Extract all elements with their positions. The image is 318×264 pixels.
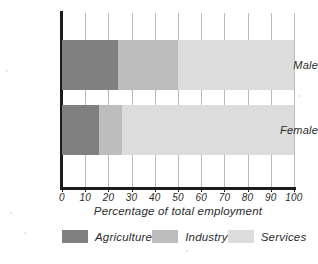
y-axis-line — [60, 11, 63, 190]
bar-segment-industry — [118, 40, 178, 90]
speckle — [186, 250, 188, 252]
x-axis-tick-label: 90 — [259, 192, 283, 203]
bar-male — [62, 40, 294, 90]
x-axis-tick-label: 10 — [73, 192, 97, 203]
bar-segment-agriculture — [62, 105, 99, 155]
legend-swatch-industry — [152, 230, 178, 243]
legend-item-agriculture: Agriculture — [62, 230, 152, 243]
category-label-female: Female — [262, 124, 318, 136]
legend-swatch-agriculture — [62, 230, 88, 243]
speckle — [24, 232, 26, 234]
x-axis-tick-label: 20 — [96, 192, 120, 203]
x-axis-tick-label: 100 — [282, 192, 306, 203]
legend-label-agriculture: Agriculture — [95, 231, 152, 243]
x-axis-tick-label: 0 — [50, 192, 74, 203]
speckle — [6, 70, 8, 72]
x-axis-line — [60, 187, 296, 190]
legend-item-industry: Industry — [152, 230, 228, 243]
x-axis-tick-label: 50 — [166, 192, 190, 203]
legend-item-services: Services — [228, 230, 307, 243]
x-axis-tick-label: 30 — [120, 192, 144, 203]
x-axis-tick-label: 80 — [236, 192, 260, 203]
bar-segment-agriculture — [62, 40, 118, 90]
speckle — [10, 212, 12, 214]
x-axis-tick-label: 60 — [189, 192, 213, 203]
stacked-bar-chart: 0102030405060708090100 Male Female Perce… — [0, 0, 318, 264]
gridline — [294, 13, 295, 188]
legend-label-industry: Industry — [185, 231, 228, 243]
x-axis-tick-label: 40 — [143, 192, 167, 203]
x-axis-title: Percentage of total employment — [62, 205, 294, 217]
x-axis-tick-label: 70 — [212, 192, 236, 203]
category-label-male: Male — [262, 59, 318, 71]
bar-segment-industry — [99, 105, 122, 155]
speckle — [298, 95, 300, 97]
bar-female — [62, 105, 294, 155]
legend-label-services: Services — [261, 231, 307, 243]
legend: AgricultureIndustryServices — [62, 230, 302, 243]
legend-swatch-services — [228, 230, 254, 243]
